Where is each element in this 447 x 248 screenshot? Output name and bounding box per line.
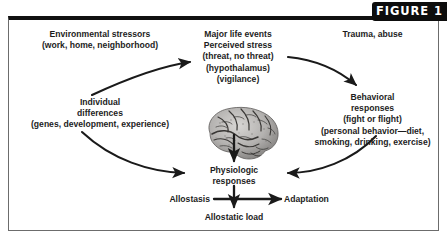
line: Perceived stress <box>178 40 298 51</box>
line: Allostatic load <box>178 212 290 223</box>
line: Physiologic <box>186 165 282 176</box>
line: differences <box>12 108 188 119</box>
label-major-life-events: Major life events Perceived stress (thre… <box>178 29 298 85</box>
line: Individual <box>12 97 188 108</box>
line: (personal behavior—diet, <box>306 126 439 137</box>
line: (work, home, neighborhood) <box>12 40 188 51</box>
line: (fight or flight) <box>306 114 439 125</box>
label-physiologic-responses: Physiologic responses <box>186 165 282 187</box>
figure-badge-label: FIGURE 1 <box>376 6 443 18</box>
line: Environmental stressors <box>12 29 188 40</box>
label-behavioral-responses: Behavioral responses (fight or flight) (… <box>306 92 439 148</box>
label-individual-differences: Individual differences (genes, developme… <box>12 97 188 131</box>
line: (vigilance) <box>178 74 298 85</box>
line: (genes, development, experience) <box>12 119 188 130</box>
brain-illustration <box>196 103 284 165</box>
figure-badge: FIGURE 1 <box>372 2 447 21</box>
line: Trauma, abuse <box>310 29 435 40</box>
line: Allostasis <box>140 194 210 205</box>
label-environmental-stressors: Environmental stressors (work, home, nei… <box>12 29 188 51</box>
figure-container: FIGURE 1 <box>0 0 447 248</box>
label-allostasis: Allostasis <box>140 194 210 205</box>
label-adaptation: Adaptation <box>284 194 364 205</box>
label-trauma-abuse: Trauma, abuse <box>310 29 435 40</box>
line: Behavioral <box>306 92 439 103</box>
line: responses <box>186 176 282 187</box>
label-allostatic-load: Allostatic load <box>178 212 290 223</box>
line: (hypothalamus) <box>178 63 298 74</box>
line: smoking, drinking, exercise) <box>306 137 439 148</box>
line: Major life events <box>178 29 298 40</box>
line: responses <box>306 103 439 114</box>
line: Adaptation <box>284 194 364 205</box>
line: (threat, no threat) <box>178 51 298 62</box>
